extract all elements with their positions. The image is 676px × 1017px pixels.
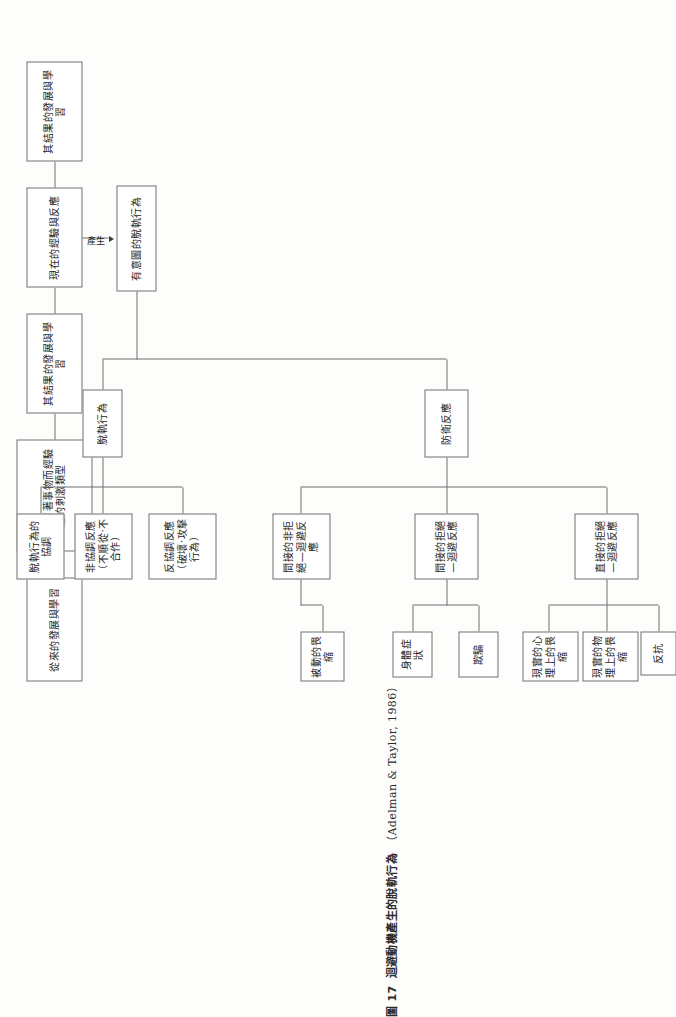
edge-present-exp-to-present-result [54,161,55,187]
node-direct-reject: 直接的拒絕—迴避反應 [574,513,638,579]
node-indirect-reject-label: 間接的拒絕—迴避反應 [434,517,459,575]
edge-indirect-reject-split [412,604,478,605]
node-present-experience: 現在的經驗與反應 [26,187,82,287]
node-coordination: 脫軌行為的協調 [16,513,64,579]
node-past-development-label: 從來的發展與學習 [48,587,61,671]
edge-indirect-nonreject-trunk [300,579,301,605]
node-somatic-symptom: 身體症狀 [392,631,432,677]
node-passive-withdraw-label: 被動的畏縮 [310,635,335,677]
edge-deviant-behavior-trunk [102,457,103,487]
node-resist: 反抗 [640,631,676,675]
node-somatic-symptom-label: 身體症狀 [400,635,425,673]
node-psych-withdraw: 現實的心理上的畏縮 [522,631,578,681]
node-non-cooperation: 非協調反應（不順從‧不合作） [74,513,132,579]
node-non-cooperation-label: 非協調反應（不順從‧不合作） [84,517,122,575]
node-past-result: 其結果的發展與學習 [26,313,82,413]
node-deviant-behavior-label: 脫軌行為 [96,402,109,444]
edge-to-physical-withdraw [606,605,607,631]
edge-to-non-cooperation [102,487,103,513]
node-indirect-nonreject: 間接的非拒絕—迴避反應 [272,513,330,579]
node-present-experience-label: 現在的經驗與反應 [48,195,61,279]
edge-defensive-split [300,486,606,487]
edge-to-deviant-behavior [102,359,103,389]
edge-to-resist [658,605,659,631]
node-counter-cooperation-label: 反協調反應（破壞‧攻擊行為） [163,517,201,575]
edge-stimulus-to-past-result [54,413,55,439]
node-defensive-reaction-label: 防衛反應 [440,402,453,444]
node-deception: 欺騙 [458,631,498,677]
edge-intentional-split [102,358,446,359]
edge-to-somatic [412,605,413,631]
node-past-development: 從來的發展與學習 [26,577,82,681]
edge-to-defensive-reaction [446,359,447,389]
edge-deviant-behavior-split [40,486,182,487]
edge-to-passive-withdraw [322,605,323,631]
node-physical-withdraw-label: 現實的物理上的畏縮 [591,635,629,677]
node-coordination-label: 脫軌行為的協調 [28,517,53,575]
edge-defensive-trunk [446,457,447,487]
figure-number: 圖 17 [386,985,399,1017]
edge-label-produces: 產生 [86,233,105,246]
node-indirect-nonreject-label: 間接的非拒絕—迴避反應 [282,517,320,575]
edge-indirect-reject-trunk [446,579,447,605]
node-present-result-label: 其結果的發展與學習 [42,65,67,157]
node-counter-cooperation: 反協調反應（破壞‧攻擊行為） [148,513,216,579]
edge-to-psych-withdraw [548,605,549,631]
node-present-result: 其結果的發展與學習 [26,61,82,161]
node-past-result-label: 其結果的發展與學習 [42,317,67,409]
edge-to-indirect-reject [446,487,447,513]
edge-to-direct-reject [606,487,607,513]
node-intentional-deviance-label: 有意圖的脫軌行為 [130,196,143,280]
node-passive-withdraw: 被動的畏縮 [300,631,344,681]
arrowhead-produces [109,236,114,242]
figure-citation: （Adelman & Taylor, 1986） [386,681,399,847]
edge-to-indirect-nonreject [300,487,301,513]
node-deviant-behavior: 脫軌行為 [82,389,122,457]
node-resist-label: 反抗 [652,643,665,664]
figure-caption: 圖 17迴避動機產生的脫軌行為（Adelman & Taylor, 1986） [383,681,399,1017]
edge-to-coordination [40,487,41,513]
edge-direct-reject-split [548,604,658,605]
node-intentional-deviance: 有意圖的脫軌行為 [116,185,156,291]
edge-to-deception [478,605,479,631]
node-psych-withdraw-label: 現實的心理上的畏縮 [531,635,569,677]
edge-to-counter-cooperation [182,487,183,513]
edge-intentional-trunk [136,291,137,359]
figure-title: 迴避動機產生的脫軌行為 [386,853,399,978]
node-indirect-reject: 間接的拒絕—迴避反應 [414,513,478,579]
node-defensive-reaction: 防衛反應 [424,389,468,457]
node-physical-withdraw: 現實的物理上的畏縮 [582,631,638,681]
edge-indirect-nonreject-drop [300,604,322,605]
node-direct-reject-label: 直接的拒絕—迴避反應 [594,517,619,575]
edge-label-produces-text: 產生 [86,235,105,245]
edge-past-result-to-present-exp [54,287,55,313]
node-deception-label: 欺騙 [472,644,485,665]
edge-direct-reject-trunk [606,579,607,605]
